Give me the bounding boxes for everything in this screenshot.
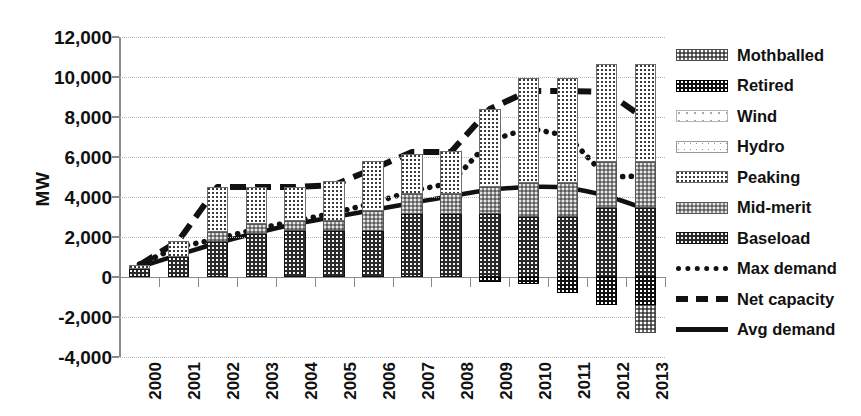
bar-group[interactable] [401,37,422,357]
legend-swatch-retired-icon [676,80,728,92]
y-axis-tick [112,116,119,118]
x-axis-tick [665,277,666,287]
bar-group[interactable] [284,37,305,357]
legend-item-net-capacity[interactable]: Net capacity [676,284,861,315]
x-axis-label-2010: 2010 [536,362,556,400]
legend-label: Net capacity [737,290,834,309]
bar-segment-peaking[interactable] [168,241,189,257]
bar-segment-peaking[interactable] [479,109,500,187]
bar-segment-peaking[interactable] [129,265,150,269]
gridline [120,237,665,238]
bar-segment-midmerit[interactable] [557,183,578,217]
bar-segment-peaking[interactable] [557,78,578,183]
legend-label: Wind [737,107,777,126]
bar-segment-baseload[interactable] [635,208,656,277]
legend-item-hydro[interactable]: Hydro [676,132,861,163]
bar-segment-baseload[interactable] [323,231,344,277]
legend-swatch-mid-merit-icon [676,202,728,214]
legend-item-wind[interactable]: Wind [676,101,861,132]
x-axis-tick [393,277,394,287]
bar-segment-peaking[interactable] [440,151,461,194]
x-axis-tick [548,277,549,287]
x-axis-label-2005: 2005 [341,362,361,400]
bar-group[interactable] [362,37,383,357]
bar-group[interactable] [207,37,228,357]
y-axis-tick [112,236,119,238]
bar-segment-retired[interactable] [479,277,500,282]
bar-segment-midmerit[interactable] [635,162,656,208]
bar-segment-baseload[interactable] [518,217,539,277]
bar-segment-baseload[interactable] [284,231,305,277]
bar-segment-peaking[interactable] [246,187,267,224]
bar-segment-midmerit[interactable] [401,194,422,214]
bar-segment-peaking[interactable] [401,154,422,194]
bar-segment-baseload[interactable] [479,214,500,277]
x-axis-tick [354,277,355,287]
bar-segment-retired[interactable] [557,277,578,293]
legend-item-retired[interactable]: Retired [676,71,861,102]
bar-group[interactable] [596,37,617,357]
bar-segment-baseload[interactable] [246,234,267,277]
x-axis-tick [315,277,316,287]
y-axis-tick-label: -4,000 [20,348,112,367]
bar-segment-peaking[interactable] [635,64,656,162]
legend-item-baseload[interactable]: Baseload [676,223,861,254]
gridline [120,197,665,198]
bar-group[interactable] [440,37,461,357]
bar-group[interactable] [518,37,539,357]
x-axis-label-2004: 2004 [302,362,322,400]
legend-item-avg-demand[interactable]: Avg demand [676,315,861,346]
legend-item-mid-merit[interactable]: Mid-merit [676,193,861,224]
bar-segment-midmerit[interactable] [479,187,500,214]
bar-segment-peaking[interactable] [518,78,539,183]
bar-segment-peaking[interactable] [323,181,344,221]
bar-segment-baseload[interactable] [362,231,383,277]
bar-segment-baseload[interactable] [401,214,422,277]
bar-group[interactable] [557,37,578,357]
bar-segment-baseload[interactable] [207,242,228,277]
x-axis-tick [276,277,277,287]
bar-segment-midmerit[interactable] [596,162,617,208]
x-axis-tick-labels: 2000200120022003200420052006200720082009… [120,360,665,416]
legend-label: Mothballed [737,46,824,65]
bar-group[interactable] [129,37,150,357]
bar-segment-peaking[interactable] [596,64,617,162]
bar-group[interactable] [168,37,189,357]
legend-item-mothballed[interactable]: Mothballed [676,40,861,71]
bar-segment-midmerit[interactable] [518,183,539,217]
bar-segment-retired[interactable] [635,277,656,305]
bar-segment-midmerit[interactable] [284,221,305,231]
bar-segment-midmerit[interactable] [362,211,383,231]
bar-segment-baseload[interactable] [596,208,617,277]
legend-swatch-net-capacity-icon [676,296,728,302]
x-axis-tick [237,277,238,287]
x-axis-label-2013: 2013 [653,362,673,400]
bar-segment-baseload[interactable] [129,269,150,277]
bar-segment-peaking[interactable] [284,187,305,221]
legend-swatch-baseload-icon [676,232,728,244]
bar-segment-midmerit[interactable] [246,224,267,234]
y-axis-tick-label: 6,000 [20,148,112,167]
bar-segment-retired[interactable] [518,277,539,284]
legend-item-peaking[interactable]: Peaking [676,162,861,193]
x-axis-label-2002: 2002 [224,362,244,400]
bar-segment-midmerit[interactable] [440,194,461,214]
bar-segment-baseload[interactable] [440,214,461,277]
legend-item-max-demand[interactable]: Max demand [676,254,861,285]
bar-group[interactable] [635,37,656,357]
y-axis-tick-label: 12,000 [20,28,112,47]
y-axis-tick [112,76,119,78]
y-axis-tick-label: 8,000 [20,108,112,127]
bar-segment-peaking[interactable] [207,187,228,232]
bar-segment-midmerit[interactable] [207,232,228,242]
bar-group[interactable] [246,37,267,357]
bar-segment-baseload[interactable] [557,217,578,277]
bar-segment-mothballed[interactable] [635,305,656,333]
bar-group[interactable] [323,37,344,357]
bar-segment-peaking[interactable] [362,161,383,211]
bar-segment-baseload[interactable] [168,257,189,277]
bar-segment-retired[interactable] [596,277,617,305]
bar-segment-midmerit[interactable] [323,221,344,231]
bar-group[interactable] [479,37,500,357]
gridline [120,317,665,318]
